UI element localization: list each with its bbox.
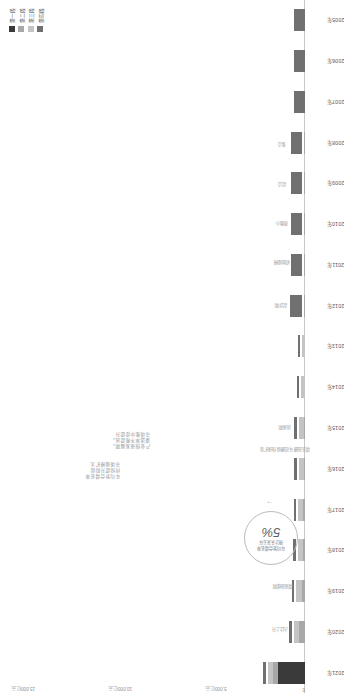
category-axis-label: 2013年 [327, 343, 344, 350]
category-axis-label: 2014年 [327, 384, 344, 391]
bar-column[interactable]: 2005年 [14, 5, 305, 35]
bar-value-label: 增长高峰 年度峰值 快速扩张 [260, 447, 310, 453]
legend-swatch-icon [37, 26, 43, 32]
legend-label: 第一段 [8, 8, 15, 23]
bar-value-label: 起步期 [275, 303, 287, 309]
category-axis-label: 2010年 [327, 221, 344, 228]
bar-segment[interactable] [294, 9, 305, 31]
bar-value-label: 占比上升 [272, 627, 288, 633]
bar-column[interactable]: 2016年 [14, 454, 305, 484]
bar-segment[interactable] [302, 580, 305, 602]
bar-segment[interactable] [304, 458, 305, 480]
bar-segment[interactable] [294, 50, 305, 72]
bar-column[interactable]: 2007年 [14, 87, 305, 117]
stacked-bar[interactable] [294, 458, 305, 480]
bar-segment[interactable] [299, 621, 305, 643]
category-axis-label: 2009年 [327, 180, 344, 187]
bar-column[interactable]: 2010年 [14, 209, 305, 239]
stacked-bar[interactable] [298, 336, 305, 358]
bar-segment[interactable] [304, 295, 305, 317]
bar-column[interactable]: 2019年 [14, 576, 305, 606]
bar-segment[interactable] [294, 91, 305, 113]
bar-column[interactable]: 2013年 [14, 332, 305, 362]
anno-phase: 产业快速发展期， 渗透率不断提高， 市场集中度提升 [110, 430, 150, 449]
legend-swatch-icon [18, 26, 24, 32]
stacked-bar[interactable] [294, 499, 305, 521]
bar-column[interactable]: 2009年 [14, 168, 305, 198]
bar-segment[interactable] [304, 254, 305, 276]
bar-segment[interactable] [278, 662, 305, 684]
category-axis-label: 2018年 [327, 547, 344, 554]
bar-segment[interactable] [290, 295, 302, 317]
legend-label: 第四段 [37, 8, 44, 23]
bar-column[interactable]: 2020年 [14, 617, 305, 647]
bar-segment[interactable] [303, 539, 305, 561]
legend-swatch-icon [9, 26, 15, 32]
callout-value: 5% [262, 525, 281, 540]
legend-item[interactable]: 第三段 [27, 8, 34, 32]
category-axis-label: 2008年 [327, 139, 344, 146]
bar-segment[interactable] [291, 172, 302, 194]
bar-value-label: 基数小 [276, 221, 288, 227]
category-axis-label: 2007年 [327, 98, 344, 105]
bar-column[interactable]: 2012年 [14, 291, 305, 321]
bar-segment[interactable] [304, 172, 305, 194]
anno-growth: 年均复合增长率 持续提升阶段 市场规模扩大 [85, 460, 120, 479]
stacked-bar[interactable] [294, 9, 305, 31]
callout-arrow-icon: → [266, 500, 273, 507]
bar-segment[interactable] [302, 336, 305, 358]
category-axis-label: 2005年 [327, 17, 344, 24]
category-axis-label: 2020年 [327, 628, 344, 635]
bar-column[interactable]: 2014年 [14, 372, 305, 402]
bar-segment[interactable] [291, 254, 302, 276]
stacked-bar[interactable] [294, 50, 305, 72]
legend-swatch-icon [28, 26, 34, 32]
legend-item[interactable]: 第四段 [37, 8, 44, 32]
stacked-bar[interactable] [291, 172, 305, 194]
bar-column[interactable]: 2021年 [14, 658, 305, 688]
stacked-bar[interactable] [291, 254, 305, 276]
bar-column[interactable]: 2015年 [14, 413, 305, 443]
stacked-bar[interactable] [297, 376, 305, 398]
category-axis-label: 2017年 [327, 506, 344, 513]
bar-value-label: 落点 [278, 142, 286, 148]
bar-segment[interactable] [303, 499, 305, 521]
bar-segment[interactable] [291, 213, 302, 235]
bar-value-label: 增速放缓期 [273, 584, 293, 590]
category-axis-label: 2019年 [327, 588, 344, 595]
stacked-bar[interactable] [291, 213, 305, 235]
bar-segment[interactable] [304, 417, 305, 439]
bar-segment[interactable] [291, 132, 302, 154]
bar-column[interactable]: 2006年 [14, 46, 305, 76]
stacked-bar[interactable] [291, 132, 305, 154]
stacked-bar[interactable] [290, 295, 305, 317]
stacked-bar[interactable] [263, 662, 305, 684]
bar-segment[interactable] [304, 213, 305, 235]
bar-segment[interactable] [301, 376, 305, 398]
stacked-bar[interactable] [292, 580, 305, 602]
category-axis-label: 2015年 [327, 425, 344, 432]
category-axis-label: 2011年 [327, 261, 344, 268]
category-axis-label: 2012年 [327, 302, 344, 309]
bar-value-label: 初始规模 [274, 260, 290, 266]
bar-column[interactable]: 2008年 [14, 128, 305, 158]
legend-label: 第三段 [27, 8, 34, 23]
callout-text: 年均复合增长率 预计未来五年 [257, 540, 285, 551]
bar-value-label: 起点 [278, 182, 286, 188]
bar-value-label: 高速期 [279, 425, 291, 431]
legend: 第一段第二段第三段第四段 [8, 8, 44, 32]
category-axis-label: 2016年 [327, 465, 344, 472]
category-axis-label: 2021年 [327, 669, 344, 676]
legend-label: 第二段 [18, 8, 25, 23]
legend-item[interactable]: 第一段 [8, 8, 15, 32]
stacked-bar[interactable] [294, 91, 305, 113]
stacked-bar[interactable] [294, 417, 305, 439]
bar-segment[interactable] [304, 132, 305, 154]
legend-item[interactable]: 第二段 [18, 8, 25, 32]
callout-circle: 年均复合增长率 预计未来五年 5% [244, 511, 298, 565]
stacked-bar[interactable] [289, 621, 305, 643]
bar-column[interactable]: 2011年 [14, 250, 305, 280]
category-axis-label: 2006年 [327, 58, 344, 65]
